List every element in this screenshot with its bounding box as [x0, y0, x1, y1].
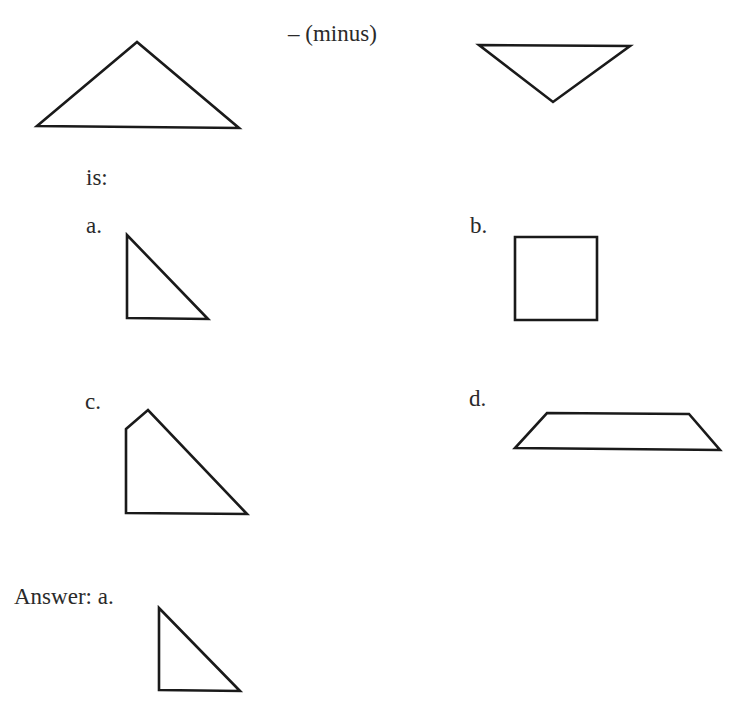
option-a-label: a. [86, 214, 102, 237]
minus-operator-label: – (minus) [288, 22, 377, 45]
option-d-label: d. [469, 387, 486, 410]
minuend-triangle [37, 42, 239, 128]
subtrahend-inverted-triangle [479, 45, 630, 102]
answer-label: Answer: a. [14, 585, 114, 608]
option-d-trapezoid [515, 413, 720, 450]
option-b-square [515, 237, 597, 320]
answer-right-triangle [159, 608, 240, 691]
option-c-pentagon [126, 410, 247, 514]
option-c-label: c. [85, 390, 101, 413]
option-b-label: b. [470, 214, 487, 237]
is-label: is: [86, 166, 108, 189]
option-a-right-triangle [127, 235, 208, 319]
